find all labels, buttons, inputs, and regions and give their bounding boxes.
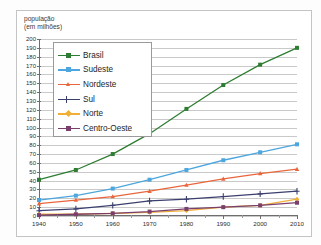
y-tick-label: 140 — [16, 89, 36, 95]
data-point — [258, 191, 263, 197]
x-tick-label: 1970 — [143, 220, 157, 227]
y-tick-label: 50 — [16, 169, 36, 175]
data-point — [258, 203, 262, 207]
legend-label: Sul — [80, 95, 95, 104]
x-tick-label: 2000 — [253, 220, 267, 227]
data-point — [111, 187, 115, 191]
data-point — [37, 213, 41, 217]
legend-marker — [66, 96, 68, 103]
data-point — [111, 211, 115, 215]
x-tick-label: 1990 — [216, 220, 230, 227]
x-tick-label: 1960 — [106, 220, 120, 227]
legend-swatch-icon — [58, 50, 80, 60]
data-point — [184, 168, 188, 172]
legend-line — [58, 99, 80, 100]
data-point — [74, 168, 78, 172]
x-tick-label: 1980 — [180, 220, 194, 227]
legend-marker — [66, 126, 71, 131]
data-point — [73, 206, 78, 212]
data-point — [74, 212, 78, 216]
legend-item-sul[interactable]: Sul — [58, 92, 151, 107]
y-tick-label: 100 — [16, 125, 36, 131]
x-tick-label: 1950 — [69, 220, 83, 227]
y-tick-label: 30 — [16, 186, 36, 192]
legend-item-norte[interactable]: Norte — [58, 106, 151, 121]
legend-swatch-icon — [58, 79, 80, 89]
data-point — [111, 152, 115, 156]
y-axis-title-line1: população — [24, 15, 62, 23]
data-point — [258, 150, 262, 154]
y-tick-label: 130 — [16, 98, 36, 104]
x-tick-label: 2010 — [290, 220, 304, 227]
y-tick-label: 40 — [16, 178, 36, 184]
legend-marker — [66, 82, 70, 86]
legend-swatch-icon — [58, 65, 80, 75]
legend-marker — [66, 67, 71, 72]
data-point — [37, 178, 41, 182]
legend-item-sudeste[interactable]: Sudeste — [58, 63, 151, 78]
y-axis-title: população (em milhões) — [24, 15, 62, 31]
chart-legend: BrasilSudesteNordesteSulNorteCentro-Oest… — [53, 42, 152, 137]
y-tick-label: 110 — [16, 116, 36, 122]
y-tick-label: 150 — [16, 80, 36, 86]
legend-label: Nordeste — [80, 80, 116, 89]
legend-label: Centro-Oeste — [80, 124, 132, 133]
legend-item-centro-oeste[interactable]: Centro-Oeste — [58, 121, 151, 136]
y-tick-label: 190 — [16, 45, 36, 51]
y-tick-label: 20 — [16, 195, 36, 201]
data-point — [147, 198, 152, 204]
legend-label: Sudeste — [80, 65, 113, 74]
chart-figure: Gráficos: Allmaps/Arquivo da editora pop… — [0, 0, 321, 245]
legend-marker — [65, 110, 72, 117]
legend-label: Brasil — [80, 51, 103, 60]
data-point — [110, 202, 115, 208]
legend-swatch-icon — [58, 109, 80, 119]
y-tick-label: 60 — [16, 160, 36, 166]
data-point — [148, 210, 152, 214]
legend-item-brasil[interactable]: Brasil — [58, 48, 151, 63]
y-tick-label: 170 — [16, 63, 36, 69]
y-axis-title-line2: (em milhões) — [24, 23, 62, 31]
legend-item-nordeste[interactable]: Nordeste — [58, 77, 151, 92]
data-point — [221, 205, 225, 209]
data-point — [295, 201, 299, 205]
legend-swatch-icon — [58, 123, 80, 133]
data-point — [184, 196, 189, 202]
x-tick-mark — [297, 215, 298, 219]
cut-off-caption-strip — [0, 0, 321, 9]
data-point — [295, 142, 299, 146]
data-point — [184, 107, 188, 111]
legend-swatch-icon — [58, 94, 80, 104]
data-point — [221, 193, 226, 199]
y-tick-label: 180 — [16, 54, 36, 60]
y-tick-label: 10 — [16, 204, 36, 210]
y-tick-label: 90 — [16, 133, 36, 139]
data-point — [148, 178, 152, 182]
y-tick-label: 160 — [16, 71, 36, 77]
data-point — [258, 63, 262, 67]
data-point — [221, 158, 225, 162]
legend-marker — [66, 53, 71, 58]
y-tick-label: 0 — [16, 213, 36, 219]
legend-label: Norte — [80, 109, 103, 118]
data-point — [184, 207, 188, 211]
x-tick-label: 1940 — [32, 220, 46, 227]
data-point — [295, 46, 299, 50]
data-point — [74, 194, 78, 198]
y-tick-label: 200 — [16, 36, 36, 42]
y-tick-label: 80 — [16, 142, 36, 148]
y-tick-label: 120 — [16, 107, 36, 113]
data-point — [221, 83, 225, 87]
y-tick-label: 70 — [16, 151, 36, 157]
